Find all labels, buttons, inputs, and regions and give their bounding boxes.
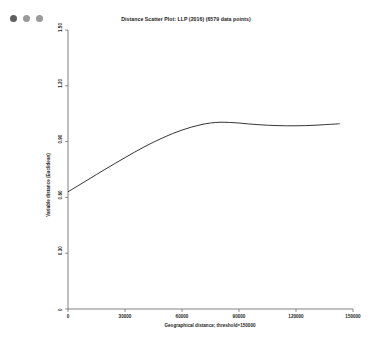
x-tick-label: 120000 — [288, 314, 304, 319]
y-axis-title: Variable distance (Euclidean) — [46, 153, 51, 217]
y-axis-ticks — [65, 30, 68, 309]
y-axis-tick-labels: 0 0.30 0.60 0.90 1.20 1.50 — [58, 23, 63, 311]
x-tick-label: 90000 — [233, 314, 246, 319]
x-tick-label: 0 — [67, 314, 70, 319]
chart-svg: 0 0.30 0.60 0.90 1.20 1.50 0 30000 60000 — [0, 0, 372, 345]
chart-plot-area: 0 0.30 0.60 0.90 1.20 1.50 0 30000 60000 — [0, 0, 372, 345]
app-window: Distance Scatter Plot: LLP (2016) (6579 … — [0, 0, 372, 345]
y-tick-label: 0.60 — [58, 190, 63, 199]
x-axis-tick-labels: 0 30000 60000 90000 120000 150000 — [67, 314, 361, 319]
y-tick-label: 1.20 — [58, 78, 63, 87]
x-tick-label: 30000 — [119, 314, 132, 319]
x-tick-label: 150000 — [345, 314, 361, 319]
y-tick-label: 1.50 — [58, 23, 63, 32]
trend-line-curve — [68, 122, 340, 192]
y-tick-label: 0 — [58, 308, 63, 311]
x-tick-label: 60000 — [176, 314, 189, 319]
y-tick-label: 0.30 — [58, 246, 63, 255]
y-tick-label: 0.90 — [58, 134, 63, 143]
x-axis-ticks — [68, 309, 353, 312]
x-axis-title: Geographical distance; threshold=150000 — [164, 323, 255, 328]
